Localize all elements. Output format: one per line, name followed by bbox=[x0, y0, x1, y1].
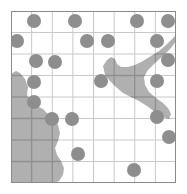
sample-point-marker[interactable] bbox=[71, 147, 85, 161]
map-panel[interactable] bbox=[11, 11, 176, 183]
sample-point-marker[interactable] bbox=[29, 54, 43, 68]
sample-point-marker[interactable] bbox=[80, 34, 94, 48]
sample-point-marker[interactable] bbox=[45, 112, 59, 126]
sample-point-marker[interactable] bbox=[68, 14, 82, 28]
sample-point-marker[interactable] bbox=[88, 182, 102, 183]
sample-point-marker[interactable] bbox=[27, 95, 41, 109]
sample-point-marker[interactable] bbox=[150, 182, 164, 183]
sample-point-marker[interactable] bbox=[48, 55, 62, 69]
sample-point-marker[interactable] bbox=[27, 14, 41, 28]
sample-point-marker[interactable] bbox=[11, 34, 24, 48]
sample-point-marker[interactable] bbox=[130, 14, 144, 28]
sample-point-marker[interactable] bbox=[127, 163, 141, 177]
sample-point-markers[interactable] bbox=[11, 11, 176, 183]
sample-point-marker[interactable] bbox=[27, 75, 41, 89]
sample-point-marker[interactable] bbox=[150, 110, 164, 124]
map-figure bbox=[0, 0, 187, 194]
sample-point-marker[interactable] bbox=[94, 74, 108, 88]
sample-point-marker[interactable] bbox=[150, 74, 164, 88]
sample-point-marker[interactable] bbox=[101, 34, 115, 48]
sample-point-marker[interactable] bbox=[162, 130, 176, 144]
sample-point-marker[interactable] bbox=[65, 112, 79, 126]
sample-point-marker[interactable] bbox=[161, 53, 175, 67]
sample-point-marker[interactable] bbox=[161, 14, 175, 28]
sample-point-marker[interactable] bbox=[150, 34, 164, 48]
